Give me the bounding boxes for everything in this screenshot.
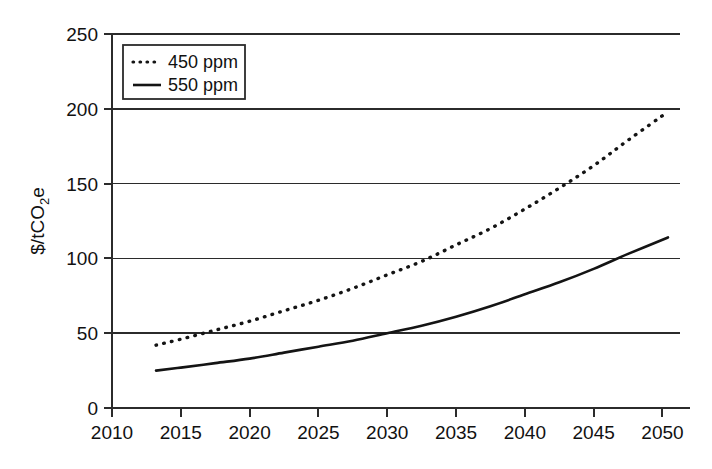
y-axis-title-subscript: 2: [37, 198, 52, 205]
y-tick-label-0: 0: [87, 398, 98, 419]
x-tick-label-2025: 2025: [297, 422, 339, 443]
y-tick-label-200: 200: [66, 99, 98, 120]
x-tick-label-2020: 2020: [228, 422, 270, 443]
chart-container: 050100150200250 201020152020202520302035…: [0, 0, 712, 469]
chart-background: [0, 0, 712, 469]
y-tick-label-250: 250: [66, 24, 98, 45]
x-tick-label-2035: 2035: [435, 422, 477, 443]
y-tick-label-50: 50: [77, 323, 98, 344]
y-tick-label-150: 150: [66, 174, 98, 195]
y-axis-title-post: e: [27, 187, 48, 198]
x-tick-label-2045: 2045: [573, 422, 615, 443]
x-tick-label-2030: 2030: [366, 422, 408, 443]
y-axis-title-pre: $/tCO: [27, 205, 48, 255]
x-tick-label-2050: 2050: [641, 422, 683, 443]
x-tick-label-2040: 2040: [504, 422, 546, 443]
legend-label-550ppm: 550 ppm: [168, 75, 238, 95]
y-tick-label-100: 100: [66, 248, 98, 269]
legend-label-450ppm: 450 ppm: [168, 52, 238, 72]
x-tick-label-2015: 2015: [160, 422, 202, 443]
chart-legend: 450 ppm 550 ppm: [123, 45, 245, 99]
carbon-price-line-chart: 050100150200250 201020152020202520302035…: [0, 0, 712, 469]
x-tick-label-2010: 2010: [91, 422, 133, 443]
